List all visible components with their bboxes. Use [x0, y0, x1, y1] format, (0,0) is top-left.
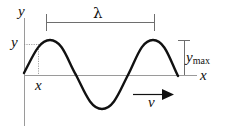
amplitude-label-sub: max [193, 55, 210, 66]
x-axis-label: x [199, 67, 207, 83]
sine-wave [24, 40, 178, 109]
velocity-label: v [148, 94, 155, 110]
wave-diagram: y x y x λ ymax v [0, 0, 226, 128]
amplitude-label-main: y [184, 49, 193, 65]
y-axis-label: y [16, 3, 25, 19]
wavelength-label: λ [93, 4, 103, 22]
point-y-label: y [9, 34, 18, 50]
point-x-label: x [34, 77, 42, 93]
amplitude-label: ymax [184, 49, 210, 66]
